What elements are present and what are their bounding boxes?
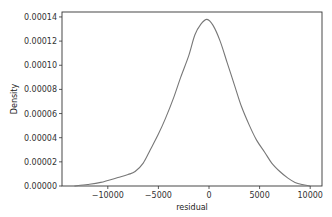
y-tick-label: 0.00004 bbox=[24, 134, 57, 143]
y-axis-label: Density bbox=[10, 84, 19, 115]
x-tick-label: −10000 bbox=[92, 191, 124, 200]
y-axis: 0.000000.000020.000040.000060.000080.000… bbox=[24, 13, 62, 191]
x-tick-label: 10000 bbox=[297, 191, 322, 200]
y-tick-label: 0.00010 bbox=[24, 61, 57, 70]
plot-area bbox=[62, 12, 322, 186]
y-tick-label: 0.00012 bbox=[24, 37, 57, 46]
x-tick-label: 0 bbox=[206, 191, 211, 200]
x-axis-label: residual bbox=[176, 203, 208, 212]
x-tick-label: −5000 bbox=[145, 191, 172, 200]
x-tick-label: 5000 bbox=[249, 191, 269, 200]
axes-frame bbox=[62, 12, 322, 186]
y-tick-label: 0.00008 bbox=[24, 85, 57, 94]
kde-chart: 0.000000.000020.000040.000060.000080.000… bbox=[0, 0, 332, 217]
y-tick-label: 0.00006 bbox=[24, 110, 57, 119]
x-axis: −10000−50000500010000 bbox=[92, 186, 323, 200]
y-tick-label: 0.00002 bbox=[24, 158, 57, 167]
y-tick-label: 0.00014 bbox=[24, 13, 57, 22]
y-tick-label: 0.00000 bbox=[24, 182, 57, 191]
